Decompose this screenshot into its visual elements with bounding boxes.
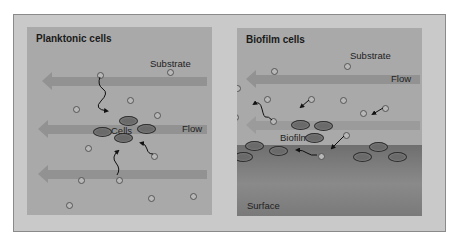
diffusion-arrows: [237, 28, 422, 216]
diffusion-arrows: [27, 27, 212, 215]
planktonic-panel: Planktonic cells Substrate Flow Cells: [27, 27, 212, 215]
biofilm-panel: Biofilm cells Substrate Flow Biofilm Sur…: [237, 28, 422, 216]
